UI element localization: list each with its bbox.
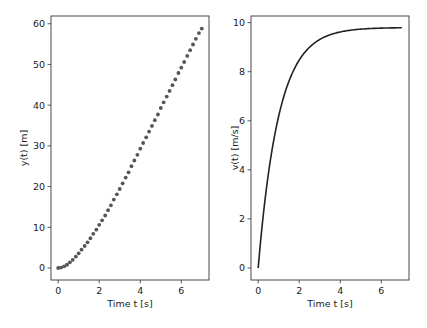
data-point bbox=[97, 223, 101, 227]
x-axis-label: Time t [s] bbox=[106, 298, 152, 309]
x-tick-label: 0 bbox=[55, 285, 61, 296]
y-tick-label: 10 bbox=[233, 17, 245, 28]
data-point bbox=[159, 106, 163, 110]
x-tick-label: 2 bbox=[96, 285, 102, 296]
data-point bbox=[194, 37, 198, 41]
data-point bbox=[182, 60, 186, 64]
data-point bbox=[191, 43, 195, 47]
x-tick-label: 4 bbox=[337, 285, 343, 296]
x-tick-label: 4 bbox=[137, 285, 143, 296]
x-tick-label: 6 bbox=[378, 285, 384, 296]
y-tick-label: 30 bbox=[33, 140, 45, 151]
data-point bbox=[121, 181, 125, 185]
x-axis-label: Time t [s] bbox=[306, 298, 352, 309]
y-axis-label: v(t) [m/s] bbox=[229, 126, 240, 171]
data-point bbox=[177, 71, 181, 75]
y-tick-label: 50 bbox=[33, 59, 45, 70]
data-point bbox=[124, 176, 128, 180]
data-point bbox=[197, 31, 201, 35]
data-point bbox=[68, 260, 72, 264]
y-tick-label: 0 bbox=[239, 262, 245, 273]
data-point bbox=[144, 135, 148, 139]
scatter-points bbox=[56, 27, 203, 270]
y-tick-label: 10 bbox=[33, 222, 45, 233]
data-point bbox=[74, 255, 78, 259]
y-tick-label: 2 bbox=[239, 213, 245, 224]
data-point bbox=[153, 118, 157, 122]
figure: 02460102030405060Time t [s]y(t) [m]02460… bbox=[0, 0, 427, 328]
data-point bbox=[103, 214, 107, 218]
data-point bbox=[185, 54, 189, 58]
y-tick-label: 40 bbox=[33, 100, 45, 111]
velocity-line bbox=[258, 28, 402, 268]
data-point bbox=[94, 228, 98, 232]
data-point bbox=[188, 48, 192, 52]
data-point bbox=[173, 78, 177, 82]
data-point bbox=[71, 258, 75, 262]
data-point bbox=[165, 95, 169, 99]
data-point bbox=[141, 141, 145, 145]
data-point bbox=[100, 218, 104, 222]
data-point bbox=[118, 187, 122, 191]
data-point bbox=[106, 208, 110, 212]
data-point bbox=[127, 170, 131, 174]
axes-frame bbox=[51, 16, 209, 280]
y-tick-label: 20 bbox=[33, 181, 45, 192]
data-point bbox=[135, 153, 139, 157]
data-point bbox=[109, 203, 113, 207]
data-point bbox=[86, 240, 90, 244]
data-point bbox=[168, 89, 172, 93]
data-point bbox=[115, 192, 119, 196]
data-point bbox=[88, 236, 92, 240]
right-plot: 02460246810Time t [s]v(t) [m/s] bbox=[229, 16, 409, 309]
data-point bbox=[132, 159, 136, 163]
y-tick-label: 8 bbox=[239, 66, 245, 77]
y-axis-label: y(t) [m] bbox=[18, 130, 29, 166]
x-tick-label: 6 bbox=[178, 285, 184, 296]
data-point bbox=[179, 66, 183, 70]
y-tick-label: 0 bbox=[39, 262, 45, 273]
axes-frame bbox=[251, 16, 409, 280]
x-tick-label: 0 bbox=[255, 285, 261, 296]
data-point bbox=[156, 113, 160, 117]
data-point bbox=[138, 147, 142, 151]
data-point bbox=[147, 130, 151, 134]
x-tick-label: 2 bbox=[296, 285, 302, 296]
data-point bbox=[162, 100, 166, 104]
data-point bbox=[91, 232, 95, 236]
data-point bbox=[80, 248, 84, 252]
data-point bbox=[150, 124, 154, 128]
data-point bbox=[65, 263, 69, 267]
data-point bbox=[112, 198, 116, 202]
data-point bbox=[83, 244, 87, 248]
data-point bbox=[77, 251, 81, 255]
left-plot: 02460102030405060Time t [s]y(t) [m] bbox=[18, 16, 209, 309]
data-point bbox=[171, 83, 175, 87]
data-point bbox=[200, 27, 204, 31]
y-tick-label: 6 bbox=[239, 115, 245, 126]
y-tick-label: 60 bbox=[33, 18, 45, 29]
data-point bbox=[130, 164, 134, 168]
